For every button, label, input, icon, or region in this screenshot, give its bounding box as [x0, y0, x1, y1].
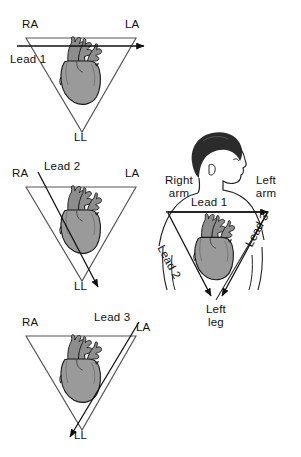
lead-label-3: Lead 3	[94, 311, 130, 323]
label-right-arm-line1: Right	[157, 174, 201, 186]
vertex-label-ll-lead2: LL	[74, 280, 87, 292]
label-left-leg-line2: leg	[196, 316, 236, 328]
vertex-label-ra-lead1: RA	[22, 18, 38, 30]
vertex-label-la-lead1: LA	[125, 18, 139, 30]
vertex-label-ll-lead1: LL	[74, 131, 87, 143]
vertex-label-la-lead3: LA	[136, 321, 150, 333]
lead-label-1: Lead 1	[10, 53, 46, 65]
vertex-label-ra-lead3: RA	[22, 316, 38, 328]
vertex-label-la-lead2: LA	[125, 167, 139, 179]
label-left-leg-line1: Left	[196, 303, 236, 315]
label-left-arm-line1: Left	[248, 174, 284, 186]
lead-label-2: Lead 2	[44, 160, 80, 172]
vertex-label-ll-lead3: LL	[74, 429, 87, 441]
body-lead-label-1: Lead 1	[191, 196, 227, 208]
label-left-arm-line2: arm	[248, 187, 284, 199]
vertex-label-ra-lead2: RA	[12, 167, 28, 179]
